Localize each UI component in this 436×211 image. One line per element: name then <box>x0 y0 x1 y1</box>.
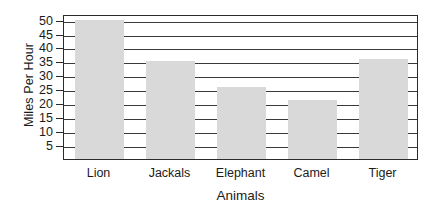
x-axis-tick-labels: LionJackalsElephantCamelTiger <box>63 166 418 184</box>
y-axis-tick-label: 35 <box>22 56 53 69</box>
y-axis-tick-label: 50 <box>22 14 53 27</box>
y-axis-tick-label: 30 <box>22 70 53 83</box>
y-axis-tick-label: 15 <box>22 112 53 125</box>
bar <box>359 59 409 159</box>
bar <box>217 87 267 160</box>
x-axis-tick-label: Tiger <box>368 166 396 180</box>
bar <box>75 20 125 159</box>
bars-layer <box>64 16 417 159</box>
x-axis-tick-label: Elephant <box>216 166 265 180</box>
bar-chart: Miles Per Hour 5101520253035404550 LionJ… <box>0 0 436 211</box>
y-axis-tick-label: 25 <box>22 84 53 97</box>
y-axis-tick-labels: 5101520253035404550 <box>22 15 53 160</box>
y-axis-tick-label: 20 <box>22 98 53 111</box>
y-axis-tick-label: 5 <box>22 140 53 153</box>
x-axis-tick-label: Lion <box>87 166 111 180</box>
x-axis-tick-label: Camel <box>293 166 329 180</box>
plot-area <box>63 15 418 160</box>
bar <box>146 61 196 159</box>
x-axis-tick-label: Jackals <box>149 166 191 180</box>
y-axis-tick-label: 45 <box>22 28 53 41</box>
y-axis-tick-label: 40 <box>22 42 53 55</box>
bar <box>288 100 338 159</box>
y-axis-tick-label: 10 <box>22 126 53 139</box>
x-axis-title: Animals <box>63 188 418 203</box>
